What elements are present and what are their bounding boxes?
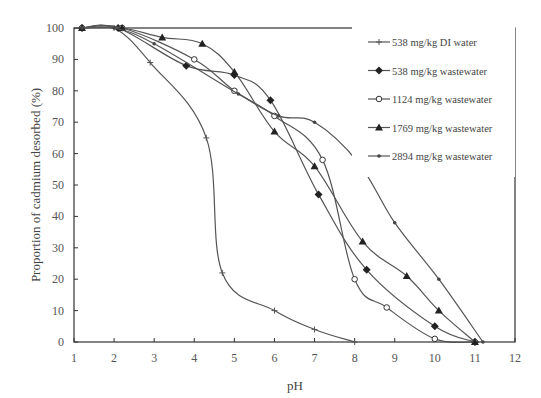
y-tick-label: 90 [52, 52, 64, 66]
x-tick-label: 6 [271, 351, 277, 365]
x-tick-label: 1 [71, 351, 77, 365]
x-axis-title: pH [287, 378, 303, 393]
legend: 538 mg/kg DI water538 mg/kg wastewater11… [352, 27, 515, 177]
x-tick-label: 2 [111, 351, 117, 365]
legend-label: 538 mg/kg wastewater [392, 66, 488, 77]
y-tick-label: 10 [52, 304, 64, 318]
legend-label: 2894 mg/kg wastewater [392, 151, 493, 162]
y-tick-label: 30 [52, 241, 64, 255]
y-tick-label: 50 [52, 178, 64, 192]
y-axis-title: Proportion of cadmium desorbed (%) [28, 88, 43, 282]
chart: 0102030405060708090100 123456789101112 p… [0, 0, 541, 398]
x-tick-label: 9 [392, 351, 398, 365]
y-axis: 0102030405060708090100 [46, 21, 78, 349]
y-tick-label: 0 [58, 335, 64, 349]
x-tick-label: 11 [469, 351, 481, 365]
y-tick-label: 100 [46, 21, 64, 35]
x-tick-label: 12 [509, 351, 521, 365]
x-tick-label: 7 [312, 351, 318, 365]
y-tick-label: 40 [52, 209, 64, 223]
legend-label: 1124 mg/kg wastewater [392, 94, 492, 105]
legend-label: 1769 mg/kg wastewater [392, 123, 493, 134]
y-tick-label: 70 [52, 115, 64, 129]
legend-label: 538 mg/kg DI water [392, 37, 477, 48]
x-tick-label: 3 [151, 351, 157, 365]
x-tick-label: 4 [191, 351, 197, 365]
x-tick-label: 5 [231, 351, 237, 365]
y-tick-label: 80 [52, 84, 64, 98]
y-tick-label: 60 [52, 147, 64, 161]
x-tick-label: 10 [429, 351, 441, 365]
x-tick-label: 8 [352, 351, 358, 365]
y-tick-label: 20 [52, 272, 64, 286]
